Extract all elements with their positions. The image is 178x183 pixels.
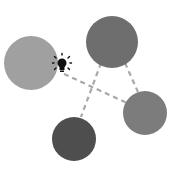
edge-top-right — [125, 63, 138, 92]
node-bottom — [52, 117, 96, 161]
node-top — [86, 16, 138, 68]
node-right — [123, 91, 167, 135]
diagram-canvas — [0, 0, 178, 183]
edge-left-right — [64, 74, 127, 103]
node-left — [4, 36, 58, 90]
network-diagram — [0, 0, 178, 183]
